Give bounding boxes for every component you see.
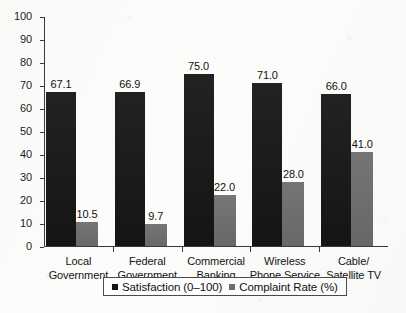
bar-value-label: 22.0 [208,182,242,193]
bar-satisfaction [46,92,76,246]
y-tick-label: 70 [6,80,32,91]
legend-swatch-icon [112,284,118,290]
x-tick [113,247,114,252]
y-tick [40,17,44,18]
y-tick [40,155,44,156]
x-tick [182,247,183,252]
bar-satisfaction [252,83,282,246]
bar-complaint-rate [351,152,373,246]
y-tick-label: 30 [6,172,32,183]
x-tick [319,247,320,252]
y-tick [40,63,44,64]
bar-complaint-rate [214,195,236,246]
y-tick-label: 0 [6,241,32,252]
bar-complaint-rate [282,182,304,246]
y-tick-label: 10 [6,218,32,229]
y-tick-label: 80 [6,57,32,68]
bar-chart-figure: 67.110.566.99.775.022.071.028.066.041.0 … [0,0,406,313]
plot-area: 67.110.566.99.775.022.071.028.066.041.0 [44,17,388,247]
legend-item: Complaint Rate (%) [229,281,338,293]
legend-item: Satisfaction (0–100) [112,281,222,293]
bar-value-label: 41.0 [345,139,379,150]
y-tick [40,201,44,202]
bar-complaint-rate [145,224,167,246]
chart-legend: Satisfaction (0–100)Complaint Rate (%) [103,277,347,296]
bar-value-label: 75.0 [178,61,220,72]
y-tick [40,178,44,179]
bar-complaint-rate [76,222,98,246]
y-tick-label: 100 [6,11,32,22]
bar-value-label: 66.9 [109,79,151,90]
y-tick [40,40,44,41]
bar-satisfaction [115,92,145,246]
bar-value-label: 10.5 [70,209,104,220]
x-axis-line [44,246,388,247]
y-tick-label: 20 [6,195,32,206]
x-tick [250,247,251,252]
y-axis-line [44,17,45,247]
legend-swatch-icon [229,284,235,290]
bar-value-label: 66.0 [315,81,357,92]
bar-value-label: 71.0 [246,70,288,81]
bar-satisfaction [184,74,214,247]
y-tick [40,109,44,110]
y-tick-label: 50 [6,126,32,137]
legend-label: Complaint Rate (%) [239,281,338,293]
bar-satisfaction [321,94,351,246]
bar-value-label: 9.7 [139,211,173,222]
bar-value-label: 67.1 [40,79,82,90]
bar-value-label: 28.0 [276,169,310,180]
y-tick [40,224,44,225]
y-tick [40,132,44,133]
y-tick [40,247,44,248]
y-tick-label: 90 [6,34,32,45]
y-tick-label: 60 [6,103,32,114]
y-tick-label: 40 [6,149,32,160]
legend-label: Satisfaction (0–100) [122,281,222,293]
